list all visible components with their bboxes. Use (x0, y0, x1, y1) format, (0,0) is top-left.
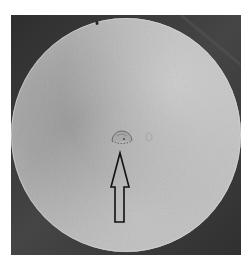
specimen-illustration (11, 15, 241, 255)
specimen-photo (11, 15, 241, 255)
edge-mark (96, 21, 99, 25)
